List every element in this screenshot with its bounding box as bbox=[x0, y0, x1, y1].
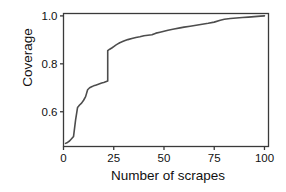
svg-text:1.0: 1.0 bbox=[42, 10, 58, 22]
svg-text:0.8: 0.8 bbox=[42, 58, 58, 70]
y-axis-label: Coverage bbox=[20, 13, 35, 103]
svg-text:75: 75 bbox=[208, 152, 221, 164]
coverage-line-chart: 02550751000.60.81.0 bbox=[0, 0, 286, 192]
chart-figure: 02550751000.60.81.0 Coverage Number of s… bbox=[0, 0, 286, 192]
svg-text:100: 100 bbox=[255, 152, 274, 164]
svg-text:50: 50 bbox=[158, 152, 171, 164]
panel-border bbox=[64, 14, 269, 147]
x-axis-label: Number of scrapes bbox=[67, 168, 269, 183]
svg-text:0.6: 0.6 bbox=[42, 106, 58, 118]
svg-text:0: 0 bbox=[60, 152, 66, 164]
svg-text:25: 25 bbox=[107, 152, 120, 164]
